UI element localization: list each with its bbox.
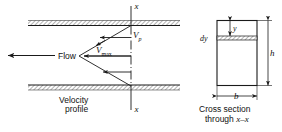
axis-label-bottom: x (134, 104, 139, 114)
elemental-strip-dy (217, 36, 257, 40)
cross-section-caption-line2: through x–x (205, 114, 249, 124)
velocity-profile-label-line2: profile (65, 104, 88, 114)
v-max-label: Vmax (96, 45, 112, 57)
svg-text:Vp: Vp (133, 30, 142, 42)
flow-label: Flow (58, 51, 77, 61)
cross-section-caption-line1: Cross section (199, 104, 251, 114)
caption-through-prefix: through (205, 114, 236, 124)
v-point-subscript: p (138, 36, 142, 42)
svg-text:Vmax: Vmax (96, 45, 112, 57)
cross-section-rectangle (217, 21, 257, 86)
width-label-b: b (234, 91, 239, 101)
caption-axis-x-x: x–x (235, 114, 249, 124)
duct-upper-wall (28, 21, 180, 26)
axis-label-top: x (134, 1, 139, 11)
v-max-subscript: max (102, 51, 112, 57)
depth-label-y: y (232, 24, 237, 33)
v-point-label: Vp (133, 30, 142, 42)
figure-canvas: x x Vp Vmax (0, 0, 282, 132)
diagram-svg: x x Vp Vmax (0, 0, 282, 132)
duct-lower-wall (28, 85, 180, 90)
height-label-h: h (270, 48, 275, 58)
strip-thickness-label-dy: dy (200, 34, 208, 43)
